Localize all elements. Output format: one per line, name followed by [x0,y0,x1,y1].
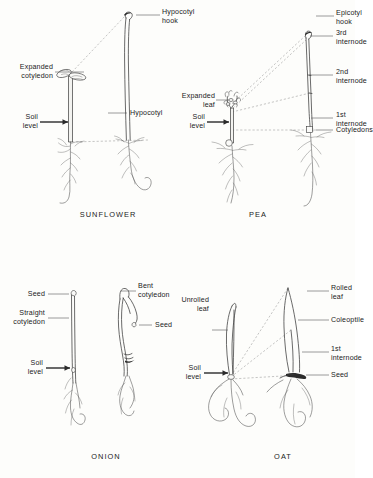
sunflower-drawing [40,12,160,203]
onion-drawing [46,288,152,425]
label-rolled-leaf: Rolled leaf [331,284,352,301]
pea-drawing [207,16,334,206]
label-coleoptile: Coleoptile [331,316,364,325]
label-hypocotyl: Hypocotyl [130,109,163,118]
label-soil-level-pea: Soil level [172,113,205,130]
label-soil-level-oat: Soil level [158,364,201,381]
label-soil-level-onion: Soil level [0,359,43,376]
oat-drawing [204,288,329,427]
label-straight-cotyledon: Straight cotyledon [0,309,45,326]
label-seed-oat: Seed [331,371,348,380]
label-1st-internode-oat: 1st internode [331,345,362,362]
label-2nd-internode: 2nd internode [336,68,367,85]
caption-oat: OAT [253,452,313,461]
label-seed-left-onion: Seed [0,290,45,299]
caption-onion: ONION [66,452,146,461]
label-cotyledons: Cotyledons [336,126,373,135]
label-hypocotyl-hook: Hypocotyl hook [162,8,195,25]
label-3rd-internode: 3rd internode [336,29,367,46]
label-seed-right-onion: Seed [155,321,172,330]
label-epicotyl-hook: Epicotyl hook [336,9,362,26]
label-expanded-cotyledon: Expanded cotyledon [0,63,53,80]
caption-pea: PEA [228,210,288,219]
caption-sunflower: SUNFLOWER [58,210,158,219]
label-bent-cotyledon: Bent cotyledon [138,282,170,299]
label-soil-level-sunflower: Soil level [0,113,38,130]
label-expanded-leaf: Expanded leaf [172,92,215,109]
label-unrolled-leaf: Unrolled leaf [166,296,209,313]
